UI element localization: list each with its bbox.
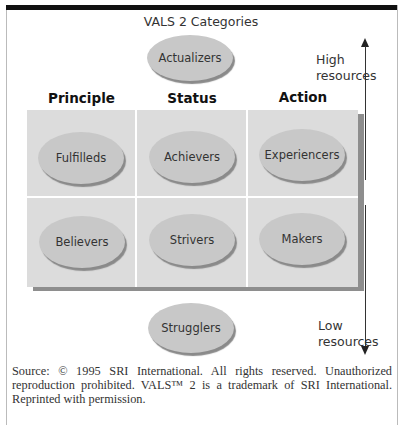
low-resources-label: Low resources	[318, 318, 379, 350]
column-header-principle: Principle	[27, 90, 136, 106]
category-label: Believers	[55, 235, 108, 249]
high-resources-label: High resources	[316, 52, 377, 84]
resource-axis-lower	[365, 205, 366, 347]
category-makers: Makers	[259, 213, 345, 265]
category-label: Experiencers	[265, 148, 340, 162]
category-grid: Fulfilleds Achievers Experiencers Believ…	[27, 110, 358, 287]
category-label: Actualizers	[158, 51, 221, 65]
diagram-title: VALS 2 Categories	[0, 14, 402, 29]
category-experiencers: Experiencers	[259, 129, 345, 181]
top-rule	[6, 5, 397, 10]
high-label-line1: High	[316, 52, 377, 68]
category-believers: Believers	[39, 216, 125, 268]
column-header-action: Action	[248, 89, 358, 105]
category-label: Achievers	[164, 150, 220, 164]
low-label-line2: resources	[318, 334, 379, 350]
category-fulfilleds: Fulfilleds	[38, 132, 124, 184]
resource-axis-upper	[365, 46, 366, 180]
category-achievers: Achievers	[149, 131, 235, 183]
column-header-status: Status	[137, 90, 247, 106]
source-caption: Source: © 1995 SRI International. All ri…	[12, 364, 392, 406]
category-strivers: Strivers	[149, 214, 235, 266]
category-label: Fulfilleds	[56, 151, 106, 165]
category-label: Makers	[281, 232, 322, 246]
low-label-line1: Low	[318, 318, 379, 334]
category-label: Strivers	[170, 233, 214, 247]
arrow-down-icon	[361, 346, 369, 355]
category-strugglers: Strugglers	[148, 303, 234, 353]
high-label-line2: resources	[316, 68, 377, 84]
category-actualizers: Actualizers	[147, 35, 233, 81]
category-label: Strugglers	[161, 321, 220, 335]
